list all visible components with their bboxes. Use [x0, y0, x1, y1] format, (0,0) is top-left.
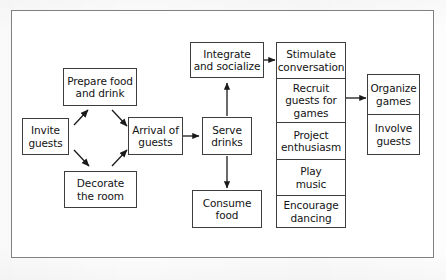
- node-invite-guests-label: Invite guests: [28, 124, 62, 149]
- node-decorate-the-room[interactable]: Decorate the room: [64, 171, 137, 208]
- node-consume-food[interactable]: Consume food: [192, 190, 262, 228]
- node-integrate-and-socialize-label: Integrate and socialize: [194, 48, 261, 73]
- games-stack: Organize games Involve guests: [367, 74, 420, 155]
- stack-cell-involve-guests[interactable]: Involve guests: [368, 115, 419, 154]
- node-prepare-food-and-drink[interactable]: Prepare food and drink: [63, 68, 137, 106]
- node-arrival-of-guests-label: Arrival of guests: [132, 124, 179, 149]
- stack-cell-project-enthusiasm[interactable]: Project enthusiasm: [277, 123, 345, 160]
- stack-cell-involve-guests-label: Involve guests: [375, 122, 412, 147]
- stack-cell-organize-games-label: Organize games: [370, 82, 416, 107]
- activity-stack: Stimulate conversation Recruit guests fo…: [276, 42, 346, 228]
- node-arrival-of-guests[interactable]: Arrival of guests: [128, 117, 183, 155]
- stack-cell-project-enthusiasm-label: Project enthusiasm: [281, 129, 341, 154]
- node-decorate-the-room-label: Decorate the room: [77, 177, 124, 202]
- stack-cell-encourage-dancing[interactable]: Encourage dancing: [277, 196, 345, 227]
- stack-cell-stimulate-conversation-label: Stimulate conversation: [278, 48, 345, 73]
- node-integrate-and-socialize[interactable]: Integrate and socialize: [190, 42, 264, 78]
- stack-cell-recruit-guests-for-games-label: Recruit guests for games: [285, 82, 337, 120]
- stack-cell-stimulate-conversation[interactable]: Stimulate conversation: [277, 43, 345, 79]
- stack-cell-play-music-label: Play music: [296, 165, 327, 190]
- stack-cell-organize-games[interactable]: Organize games: [368, 75, 419, 115]
- node-consume-food-label: Consume food: [203, 197, 252, 222]
- node-serve-drinks-label: Serve drinks: [211, 124, 243, 149]
- node-invite-guests[interactable]: Invite guests: [22, 118, 69, 155]
- diagram-canvas: Invite guests Prepare food and drink Dec…: [0, 0, 446, 280]
- stack-cell-play-music[interactable]: Play music: [277, 160, 345, 196]
- node-prepare-food-and-drink-label: Prepare food and drink: [67, 75, 133, 100]
- node-serve-drinks[interactable]: Serve drinks: [202, 117, 252, 155]
- stack-cell-recruit-guests-for-games[interactable]: Recruit guests for games: [277, 79, 345, 123]
- stack-cell-encourage-dancing-label: Encourage dancing: [283, 199, 338, 224]
